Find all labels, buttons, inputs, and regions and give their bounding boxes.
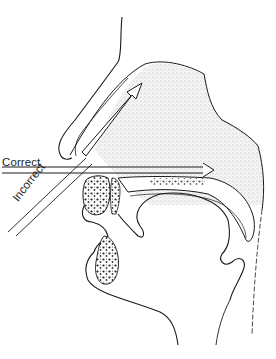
pharynx-line: [216, 300, 230, 345]
incisor-column: [111, 178, 121, 214]
tongue-outline: [118, 193, 244, 300]
nasal-anatomy-diagram: [0, 0, 276, 359]
turbinate-texture: [150, 178, 205, 186]
maxilla-section: [83, 176, 110, 215]
